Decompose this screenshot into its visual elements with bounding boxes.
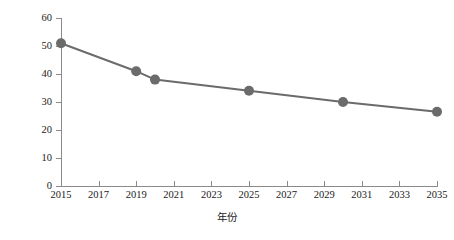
series-layer [0, 0, 454, 240]
data-point-2030[interactable] [338, 97, 348, 107]
series-line [61, 43, 437, 112]
data-point-2025[interactable] [244, 86, 254, 96]
data-point-2015[interactable] [56, 38, 66, 48]
data-point-2019[interactable] [131, 66, 141, 76]
pm25-projection-line-chart: PM2.5年均质量浓度/（μg/m3） 年份 01020304050602015… [0, 0, 454, 240]
data-point-2020[interactable] [150, 75, 160, 85]
data-point-2035[interactable] [432, 107, 442, 117]
